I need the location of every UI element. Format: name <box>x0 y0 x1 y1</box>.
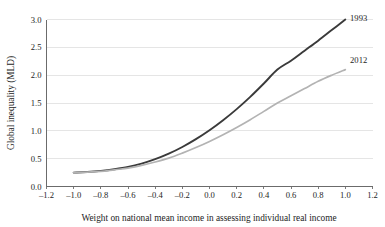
series-line-1993 <box>74 20 346 173</box>
series-group <box>74 20 346 173</box>
y-tick-label: 2.0 <box>31 70 42 80</box>
x-tick-label: 0.8 <box>313 190 324 200</box>
x-tick-label: 0.2 <box>231 190 242 200</box>
series-line-2012 <box>74 70 346 173</box>
y-tick-label: 2.5 <box>31 42 42 52</box>
y-tick-label: 0.5 <box>31 154 42 164</box>
x-tick-label: –0.4 <box>147 190 164 200</box>
chart-figure: 0.00.51.01.52.02.53.0 –1.2–1.0–0.8–0.6–0… <box>0 0 385 227</box>
chart-svg: 0.00.51.01.52.02.53.0 –1.2–1.0–0.8–0.6–0… <box>0 0 385 227</box>
x-tick-labels-group: –1.2–1.0–0.8–0.6–0.4–0.20.00.20.40.60.81… <box>38 190 378 200</box>
x-tick-label: –0.6 <box>119 190 136 200</box>
series-labels-group: 19932012 <box>350 13 367 64</box>
x-tick-label: 1.2 <box>367 190 378 200</box>
gridlines-group <box>47 20 373 159</box>
x-tick-label: –1.2 <box>38 190 54 200</box>
y-tick-label: 1.0 <box>31 126 42 136</box>
y-tick-label: 1.5 <box>31 98 42 108</box>
x-tick-label: 0.6 <box>286 190 297 200</box>
x-tick-label: 0.0 <box>204 190 215 200</box>
y-tick-label: 3.0 <box>31 15 42 25</box>
y-axis-title: Global inequality (MLD) <box>6 56 17 150</box>
x-tick-label: 0.4 <box>258 190 269 200</box>
series-label-1993: 1993 <box>350 13 367 23</box>
x-tick-label: 1.0 <box>340 190 351 200</box>
x-tick-label: –1.0 <box>65 190 81 200</box>
series-label-2012: 2012 <box>350 55 367 65</box>
x-axis-title: Weight on national mean income in assess… <box>81 213 336 223</box>
x-tick-label: –0.8 <box>92 190 108 200</box>
x-tick-label: –0.2 <box>174 190 190 200</box>
y-tick-labels-group: 0.00.51.01.52.02.53.0 <box>31 15 42 192</box>
